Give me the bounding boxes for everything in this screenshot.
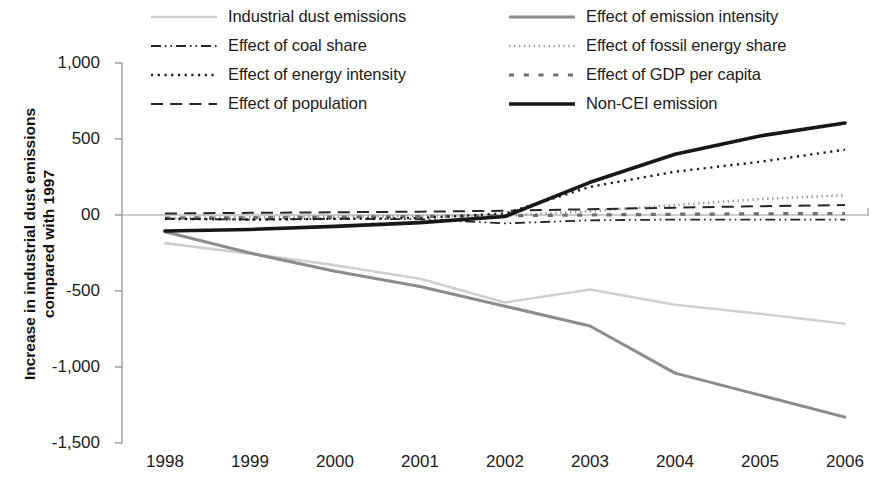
- series-line: [165, 232, 845, 417]
- x-tick-label: 1998: [146, 452, 184, 472]
- series-line: [165, 150, 845, 220]
- plot-area: 1,00050000-500-1,000-1,500 1998199920002…: [0, 0, 878, 485]
- plot-canvas: [0, 0, 878, 485]
- x-tick-label: 2002: [486, 452, 524, 472]
- x-tick-label: 2004: [656, 452, 694, 472]
- x-tick-label: 2006: [826, 452, 864, 472]
- y-tick-label: -1,500: [18, 433, 100, 453]
- x-tick-label: 2003: [571, 452, 609, 472]
- axis-lines: [115, 63, 868, 443]
- x-tick-label: 2001: [401, 452, 439, 472]
- x-tick-label: 2000: [316, 452, 354, 472]
- series-line: [165, 205, 845, 213]
- y-axis-title: Increase in industrial dust emissions co…: [20, 79, 58, 409]
- x-tick-label: 2005: [741, 452, 779, 472]
- y-tick-label: 1,000: [18, 53, 100, 73]
- chart-root: Industrial dust emissionsEffect of emiss…: [0, 0, 878, 485]
- x-tick-label: 1999: [231, 452, 269, 472]
